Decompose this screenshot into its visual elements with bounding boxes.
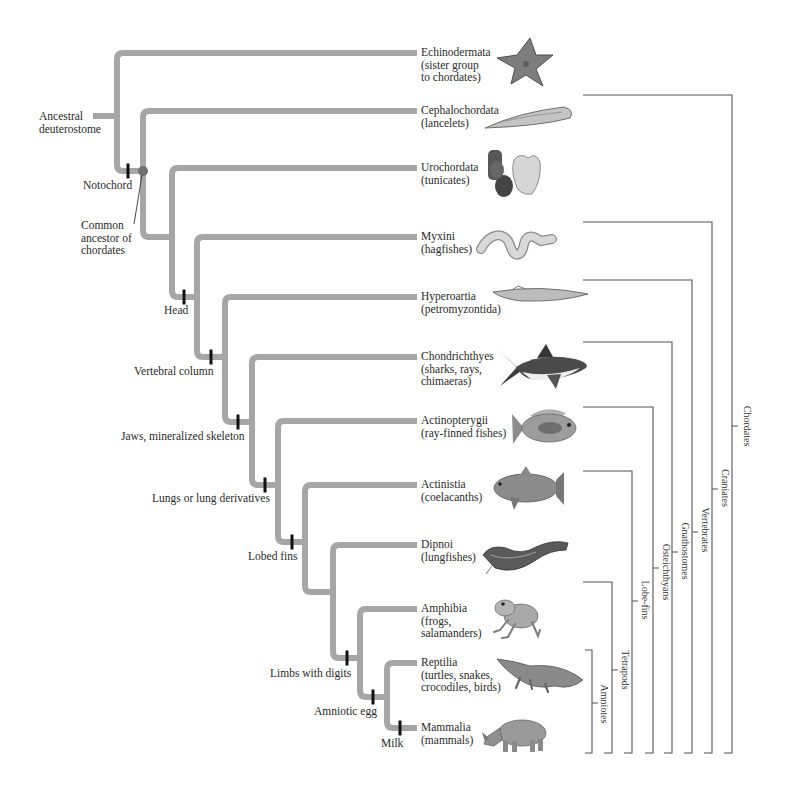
taxon-desc: (sharks, rays,: [421, 363, 494, 376]
trait-label-vertebral-column: Vertebral column: [134, 365, 214, 378]
clade-label-gnathostomes: Gnathostomes: [680, 522, 691, 579]
tick-amniotic-egg: [372, 690, 375, 705]
branch-actinopterygii: [278, 421, 417, 542]
taxon-name: Myxini: [421, 230, 472, 243]
taxon-desc: (mammals): [421, 734, 473, 747]
common-ancestor-label-line: Common: [81, 219, 132, 232]
taxon-label-actinistia: Actinistia (coelacanths): [421, 478, 482, 503]
taxon-label-cephalochordata: Cephalochordata (lancelets): [421, 104, 499, 129]
branch-actinistia: [305, 485, 417, 592]
clade-label-amniotes: Amniotes: [599, 685, 610, 724]
root-label-line: Ancestral: [39, 110, 101, 123]
taxon-label-mammalia: Mammalia (mammals): [421, 721, 473, 746]
taxon-label-actinopterygii: Actinopterygii (ray-finned fishes): [421, 414, 506, 439]
taxon-name: Cephalochordata: [421, 104, 499, 117]
taxon-name: Dipnoi: [421, 538, 476, 551]
taxon-name: Urochordata: [421, 161, 478, 174]
taxon-name: Hyperoartia: [421, 290, 501, 303]
trait-label-head: Head: [164, 304, 188, 317]
tree-branches: [93, 53, 417, 728]
lamprey-image: [493, 286, 588, 301]
bracket-vertebrates: [583, 280, 698, 753]
taxon-desc: (ray-finned fishes): [421, 427, 506, 440]
trait-label-limbs-with-digits: Limbs with digits: [270, 667, 351, 680]
sea-star-image: [497, 38, 553, 86]
common-ancestor-label-line: chordates: [81, 244, 132, 257]
bracket-tetrapods: [583, 582, 618, 753]
taxon-label-hyperoartia: Hyperoartia (petromyzontida): [421, 290, 501, 315]
branch-cephalochordata: [143, 111, 417, 237]
rhinoceros-image: [482, 720, 546, 752]
tick-head: [183, 290, 186, 305]
root-label: Ancestral deuterostome: [39, 110, 101, 135]
clade-brackets: [583, 95, 738, 753]
clade-label-vertebrates: Vertebrates: [700, 508, 711, 553]
taxon-name: Chondrichthyes: [421, 350, 494, 363]
hagfish-image: [481, 235, 552, 254]
common-ancestor-label: Common ancestor of chordates: [81, 219, 132, 257]
tick-vertebral-column: [210, 350, 213, 365]
frog-image: [494, 600, 540, 638]
taxon-name: Reptilia: [421, 656, 501, 669]
trait-label-milk: Milk: [381, 737, 403, 750]
trait-label-notochord: Notochord: [83, 179, 132, 192]
taxon-desc: (frogs,: [421, 615, 482, 628]
root-label-line: deuterostome: [39, 123, 101, 136]
tick-lungs: [264, 478, 267, 493]
ray-finned-fish-image: [512, 409, 576, 444]
tick-notochord: [127, 164, 130, 179]
taxon-label-dipnoi: Dipnoi (lungfishes): [421, 538, 476, 563]
bracket-chordates: [583, 95, 738, 753]
branch-urochordata: [172, 168, 417, 297]
taxon-name: Mammalia: [421, 721, 473, 734]
coelacanth-image: [494, 466, 564, 510]
taxon-desc: salamanders): [421, 627, 482, 640]
taxon-label-urochordata: Urochordata (tunicates): [421, 161, 478, 186]
bracket-lobe-fins: [583, 471, 638, 753]
taxon-desc: (turtles, snakes,: [421, 669, 501, 682]
tunicates-image: [488, 150, 540, 197]
taxon-desc: (coelacanths): [421, 491, 482, 504]
tick-limbs-with-digits: [346, 651, 349, 666]
taxon-desc: (hagfishes): [421, 243, 472, 256]
trait-label-lobed-fins: Lobed fins: [248, 550, 298, 563]
taxon-desc: chimaeras): [421, 375, 494, 388]
trait-label-amniotic-egg: Amniotic egg: [314, 705, 377, 718]
taxon-name: Actinopterygii: [421, 414, 506, 427]
clade-label-tetrapods: Tetrapods: [620, 650, 631, 689]
taxon-desc: (sister group: [421, 59, 491, 72]
clade-label-lobe-fins: Lobe-fins: [640, 581, 651, 620]
branch-reptilia-mammalia: [387, 663, 417, 728]
common-ancestor-node: [138, 166, 148, 176]
bracket-craniates: [583, 222, 718, 753]
bracket-amniotes: [585, 650, 598, 753]
taxon-label-reptilia: Reptilia (turtles, snakes, crocodiles, b…: [421, 656, 501, 694]
clade-label-osteichthyans: Osteichthyans: [661, 544, 672, 601]
branch-dipnoi: [333, 545, 417, 658]
phylogenetic-tree-figure: Ancestral deuterostome Common ancestor o…: [0, 0, 789, 792]
taxon-desc: (petromyzontida): [421, 303, 501, 316]
trait-label-jaws: Jaws, mineralized skeleton: [121, 430, 245, 443]
lungfish-image: [483, 542, 568, 574]
taxon-label-chondrichthyes: Chondrichthyes (sharks, rays, chimaeras): [421, 350, 494, 388]
shark-image: [498, 344, 587, 389]
taxon-desc: (tunicates): [421, 174, 478, 187]
clade-label-chordates: Chordates: [742, 406, 753, 447]
taxon-name: Amphibia: [421, 602, 482, 615]
common-ancestor-label-line: ancestor of: [81, 232, 132, 245]
tick-milk: [399, 721, 402, 736]
clade-label-craniates: Craniates: [720, 469, 731, 507]
taxon-label-amphibia: Amphibia (frogs, salamanders): [421, 602, 482, 640]
crocodile-image: [497, 659, 583, 692]
trait-label-lungs: Lungs or lung derivatives: [152, 492, 270, 505]
taxon-name: Actinistia: [421, 478, 482, 491]
taxon-desc: crocodiles, birds): [421, 681, 501, 694]
tick-lobed-fins: [291, 535, 294, 550]
tick-jaws: [237, 415, 240, 430]
tree-diagram: [0, 0, 789, 792]
taxon-desc: (lancelets): [421, 117, 499, 130]
taxon-desc: (lungfishes): [421, 551, 476, 564]
taxon-name: Echinodermata: [421, 46, 491, 59]
taxon-desc: to chordates): [421, 71, 491, 84]
taxon-label-myxini: Myxini (hagfishes): [421, 230, 472, 255]
